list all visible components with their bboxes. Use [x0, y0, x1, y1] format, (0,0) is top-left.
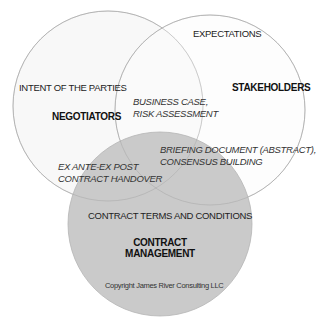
contract-subtitle: CONTRACT TERMS AND CONDITIONS [88, 210, 252, 221]
overlap-ns-line2: RISK ASSESSMENT [133, 108, 218, 120]
contract-title-line1: CONTRACT [110, 237, 210, 248]
stakeholders-title: STAKEHOLDERS [232, 82, 310, 93]
overlap-negotiators-stakeholders: BUSINESS CASE, RISK ASSESSMENT [133, 96, 218, 120]
contract-title: CONTRACT MANAGEMENT [110, 237, 210, 259]
contract-title-line2: MANAGEMENT [110, 248, 210, 259]
stakeholders-subtitle: EXPECTATIONS [193, 28, 261, 39]
overlap-nc-line1: EX ANTE-EX POST [58, 161, 162, 173]
negotiators-subtitle: INTENT OF THE PARTIES [19, 82, 127, 93]
overlap-ns-line1: BUSINESS CASE, [133, 96, 218, 108]
overlap-nc-line2: CONTRACT HANDOVER [58, 173, 162, 185]
overlap-sc-line2: CONSENSUS BUILDING [160, 156, 316, 168]
overlap-negotiators-contract: EX ANTE-EX POST CONTRACT HANDOVER [58, 161, 162, 185]
overlap-stakeholders-contract: BRIEFING DOCUMENT (ABSTRACT), CONSENSUS … [160, 144, 316, 168]
negotiators-title: NEGOTIATORS [52, 111, 121, 122]
copyright-text: Copyright James River Consulting LLC [105, 281, 223, 290]
overlap-sc-line1: BRIEFING DOCUMENT (ABSTRACT), [160, 144, 316, 156]
